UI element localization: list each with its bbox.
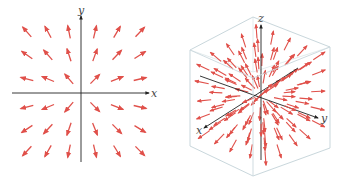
y-axis-label-3d: y [320, 112, 328, 125]
vector-arrow [45, 145, 51, 156]
vector-arrow-3d [284, 92, 295, 93]
vector-arrow-3d [212, 86, 225, 88]
vector-arrow [23, 146, 32, 156]
vector-arrow-3d [195, 81, 209, 84]
vector-arrow [44, 50, 53, 60]
vector-arrow-3d [300, 98, 313, 99]
vector-arrow [114, 26, 121, 37]
vector-arrow-3d [312, 70, 325, 75]
vector-arrow-3d [255, 59, 257, 73]
vector-arrow [90, 74, 99, 83]
vector-arrow [22, 51, 33, 58]
vector-arrow-3d [241, 34, 245, 47]
vector-arrow-3d [286, 122, 295, 132]
vector-arrow [134, 106, 147, 109]
vector-arrow-3d [257, 76, 259, 87]
vector-arrow-3d [228, 58, 237, 68]
z-axis-label: z [257, 12, 264, 25]
vector-arrow [42, 105, 54, 110]
vector-arrow [94, 145, 97, 158]
bounding-box-edge [190, 50, 253, 78]
vector-arrow-3d [215, 134, 225, 144]
vector-arrow-3d [296, 101, 309, 103]
vector-arrow [136, 27, 145, 36]
vector-arrow-3d [222, 100, 235, 102]
vector-arrow-3d [228, 96, 241, 97]
vector-arrow [67, 49, 71, 61]
vector-arrow-3d [256, 25, 257, 39]
vector-arrow [111, 77, 123, 82]
vector-arrow [111, 105, 123, 110]
vector-field-2d-canvas: x y [0, 0, 170, 177]
vector-arrow-3d [263, 70, 265, 83]
vector-arrow-3d [289, 135, 297, 146]
vector-arrow-3d [198, 100, 212, 101]
vector-arrow-3d [287, 118, 296, 127]
vector-arrow [94, 26, 97, 39]
vector-arrow-3d [230, 125, 238, 135]
vector-arrow-3d [258, 39, 259, 52]
vector-arrow-3d [277, 145, 281, 158]
vector-arrow [68, 145, 71, 158]
vector-arrow-3d [284, 38, 290, 50]
vector-arrow-3d [238, 104, 249, 113]
vector-arrow [113, 50, 122, 59]
vector-arrow-3d [311, 107, 325, 110]
vector-arrow-3d [287, 69, 298, 77]
vector-arrow [135, 126, 146, 133]
vector-field-2d: x y [0, 0, 170, 177]
vector-arrow-3d [210, 92, 223, 93]
vector-arrow-3d [274, 77, 285, 85]
vector-arrow-3d [277, 128, 283, 140]
vector-arrow-3d [260, 107, 261, 120]
vector-arrow-3d [229, 109, 239, 116]
vector-arrow-3d [227, 44, 235, 55]
vector-arrow-3d [286, 88, 299, 90]
vector-arrows-back [195, 25, 325, 121]
vector-arrow [42, 77, 54, 82]
vector-arrow-3d [250, 144, 252, 158]
vector-arrow-3d [248, 129, 252, 142]
vector-arrow [112, 124, 121, 133]
vector-arrows [21, 26, 147, 158]
vector-arrow-3d [265, 151, 266, 165]
vector-arrow [134, 78, 147, 81]
vector-arrow-3d [300, 62, 312, 70]
vector-arrow [93, 123, 98, 135]
vector-arrow [22, 125, 33, 132]
vector-arrow [93, 49, 97, 61]
vector-arrow [65, 102, 73, 112]
vector-field-3d: z x y [170, 0, 343, 177]
vector-arrow-3d [263, 122, 264, 134]
vector-field-3d-canvas: z x y [170, 0, 343, 177]
vector-arrow-3d [274, 98, 287, 101]
vector-arrow-3d [254, 43, 256, 57]
vector-arrow-3d [230, 140, 237, 152]
x-axis-label: x [151, 87, 158, 100]
vector-arrow-3d [300, 129, 311, 138]
vector-arrow [114, 146, 121, 157]
x-axis-label-3d: x [196, 124, 203, 137]
vector-arrow [135, 146, 144, 155]
vector-arrow-3d [245, 78, 255, 88]
vector-arrow [67, 123, 71, 135]
vector-arrow [65, 74, 73, 84]
vector-arrow [45, 26, 51, 37]
vector-arrow-3d [197, 64, 210, 70]
vector-arrow [23, 27, 32, 37]
vector-arrow-3d [214, 118, 225, 125]
bounding-box-hidden-edge [253, 47, 330, 72]
vector-arrow [135, 52, 146, 59]
vector-arrow-3d [274, 128, 279, 140]
vector-arrow [21, 77, 34, 80]
vector-arrow-3d [283, 96, 296, 97]
vector-arrow-3d [197, 114, 210, 119]
vector-arrow [90, 102, 99, 111]
vector-arrow-3d [242, 85, 252, 90]
vector-arrow-3d [245, 115, 250, 125]
vector-arrow-3d [258, 57, 259, 69]
y-axis-label: y [77, 4, 85, 17]
vector-arrow [21, 105, 34, 108]
vector-arrow-3d [311, 91, 325, 92]
vector-arrow-3d [271, 31, 274, 45]
